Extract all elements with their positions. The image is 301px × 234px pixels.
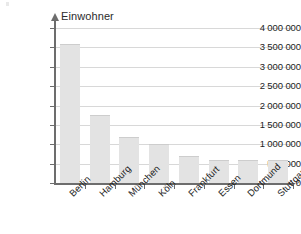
y-axis-tick-label: 1 000 000 <box>251 138 301 149</box>
bar <box>179 156 199 183</box>
image-artifact <box>6 2 9 6</box>
y-axis-tick-label: 1 500 000 <box>251 119 301 130</box>
bar-chart: 0500 0001 000 0001 500 0002 000 0002 500… <box>0 0 301 234</box>
y-axis-arrow-icon <box>51 13 59 21</box>
y-axis-tick-label: 3 000 000 <box>251 61 301 72</box>
y-axis-tick-label: 3 500 000 <box>251 41 301 52</box>
y-axis-tick-label: 2 000 000 <box>251 100 301 111</box>
bar <box>90 115 110 183</box>
y-axis-tick-label: 2 500 000 <box>251 80 301 91</box>
bar <box>60 44 80 183</box>
y-axis-title: Einwohner <box>61 10 114 22</box>
y-axis-line <box>54 20 56 184</box>
y-axis-tick-label: 4 000 000 <box>251 22 301 33</box>
